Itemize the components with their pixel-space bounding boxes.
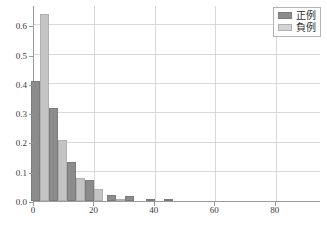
x-tick-label-4: 80	[270, 205, 279, 215]
legend: 正例負例	[273, 7, 321, 37]
x-tick-label-3: 60	[210, 205, 219, 215]
y-tick-mark-1	[29, 173, 33, 174]
y-tick-label-4: 0.4	[0, 80, 27, 90]
x-tick-label-0: 0	[31, 205, 36, 215]
histogram-chart: 0.00.10.20.30.40.50.6 020406080 正例負例	[0, 0, 327, 233]
legend-swatch-icon-1	[278, 24, 292, 31]
y-tick-label-1: 0.1	[0, 168, 27, 178]
y-tick-label-3: 0.3	[0, 109, 27, 119]
y-tick-label-5: 0.5	[0, 51, 27, 61]
legend-item-0: 正例	[278, 10, 316, 21]
x-tick-mark-3	[214, 202, 215, 206]
x-tick-label-2: 40	[149, 205, 158, 215]
y-tick-label-2: 0.2	[0, 138, 27, 148]
x-tick-mark-1	[93, 202, 94, 206]
x-tick-mark-4	[275, 202, 276, 206]
y-tick-mark-3	[29, 114, 33, 115]
legend-label-0: 正例	[296, 10, 316, 21]
legend-item-1: 負例	[278, 22, 316, 33]
y-tick-mark-2	[29, 143, 33, 144]
y-tick-label-0: 0.0	[0, 197, 27, 207]
legend-swatch-icon-0	[278, 12, 292, 19]
y-tick-mark-4	[29, 85, 33, 86]
x-tick-mark-2	[154, 202, 155, 206]
legend-label-1: 負例	[296, 22, 316, 33]
x-tick-mark-0	[33, 202, 34, 206]
y-tick-label-6: 0.6	[0, 21, 27, 31]
y-tick-mark-6	[29, 26, 33, 27]
y-tick-mark-5	[29, 56, 33, 57]
x-tick-label-1: 20	[89, 205, 98, 215]
